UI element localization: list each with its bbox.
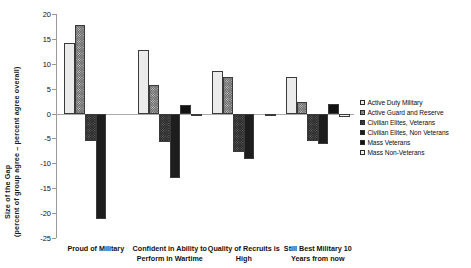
legend-item: Active Duty Military xyxy=(360,98,468,108)
bar xyxy=(138,50,149,113)
legend-swatch-icon xyxy=(360,150,365,155)
bar xyxy=(75,25,86,114)
bar xyxy=(223,77,234,113)
y-tick-label: -5 xyxy=(44,134,51,143)
bar xyxy=(297,102,308,113)
y-tick-mark xyxy=(52,213,56,214)
y-tick-label: 10 xyxy=(43,59,51,68)
y-tick-label: -20 xyxy=(40,209,51,218)
bar xyxy=(244,114,255,160)
y-axis-title-sub: (percent of group agree – percent agree … xyxy=(12,66,21,237)
y-tick-mark xyxy=(52,39,56,40)
legend-label: Mass Veterans xyxy=(367,139,410,146)
bar xyxy=(212,71,223,113)
bar xyxy=(286,77,297,113)
bar xyxy=(233,114,244,153)
y-tick-label: 5 xyxy=(47,84,51,93)
legend-label: Mass Non-Veterans xyxy=(367,149,424,156)
y-axis-title-main: Size of the Gap xyxy=(3,165,12,219)
bar xyxy=(339,114,350,117)
y-axis-title: Size of the Gap (percent of group agree … xyxy=(0,0,30,240)
legend-swatch-icon xyxy=(360,140,365,145)
y-tick-mark xyxy=(52,14,56,15)
y-tick-label: 20 xyxy=(43,10,51,19)
legend-label: Civilian Elites, Veterans xyxy=(367,119,435,126)
y-tick-mark xyxy=(52,163,56,164)
bar xyxy=(170,114,181,179)
legend-label: Active Duty Military xyxy=(367,99,422,106)
legend-item: Civilian Elites, Non Veterans xyxy=(360,128,468,138)
y-tick-label: -25 xyxy=(40,234,51,243)
y-tick-label: 15 xyxy=(43,34,51,43)
bar-chart: Size of the Gap (percent of group agree … xyxy=(0,0,471,268)
y-tick-mark xyxy=(52,89,56,90)
legend-swatch-icon xyxy=(360,130,365,135)
legend-item: Civilian Elites, Veterans xyxy=(360,118,468,128)
legend-label: Active Guard and Reserve xyxy=(367,109,443,116)
legend-swatch-icon xyxy=(360,120,365,125)
bar xyxy=(96,114,107,220)
bar-group xyxy=(212,14,276,238)
y-tick-label: 0 xyxy=(47,109,51,118)
bar xyxy=(85,114,96,142)
bar xyxy=(149,85,160,114)
legend-item: Active Guard and Reserve xyxy=(360,108,468,118)
bar xyxy=(180,105,191,114)
y-tick-label: -10 xyxy=(40,159,51,168)
y-tick-mark xyxy=(52,64,56,65)
y-tick-mark xyxy=(52,238,56,239)
bar-group xyxy=(64,14,128,238)
legend-item: Mass Non-Veterans xyxy=(360,148,468,158)
legend-swatch-icon xyxy=(360,110,365,115)
y-axis-line xyxy=(56,14,57,238)
y-tick-mark xyxy=(52,188,56,189)
bar xyxy=(318,114,329,144)
y-tick-label: -15 xyxy=(40,184,51,193)
bar xyxy=(307,114,318,141)
bar-group xyxy=(286,14,350,238)
legend-item: Mass Veterans xyxy=(360,138,468,148)
bar xyxy=(159,114,170,142)
bar xyxy=(64,43,75,114)
chart-legend: Active Duty MilitaryActive Guard and Res… xyxy=(360,98,468,158)
bar xyxy=(328,104,339,114)
y-tick-mark xyxy=(52,138,56,139)
bar xyxy=(265,114,276,116)
legend-label: Civilian Elites, Non Veterans xyxy=(367,129,448,136)
legend-swatch-icon xyxy=(360,100,365,105)
bar xyxy=(191,114,202,116)
plot-area: 20151050-5-10-15-20-25 xyxy=(56,14,354,238)
bar-group xyxy=(138,14,202,238)
x-axis-label: Still Best Military 10 Years from now xyxy=(275,244,361,263)
